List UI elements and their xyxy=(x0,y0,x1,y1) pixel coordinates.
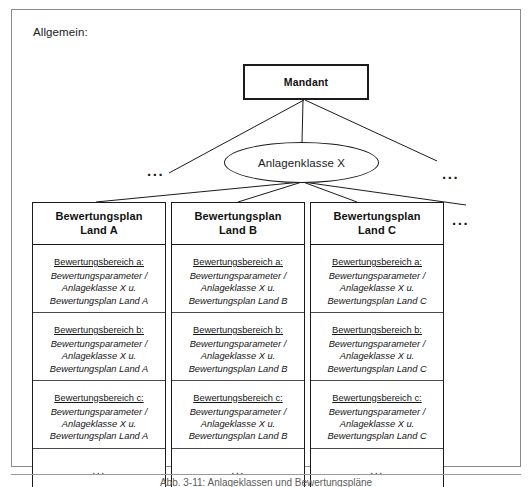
bewertungsbereich-c0-line3: Bewertungsplan Land C xyxy=(314,295,440,307)
bewertungsbereich-c0[interactable]: Bewertungsbereich a: Bewertungsparameter… xyxy=(311,245,443,313)
bewertungsbereich-a1-title: Bewertungsbereich b: xyxy=(54,324,144,336)
ellipsis-more-plans: ... xyxy=(452,212,469,227)
plan-header-a-line2: Land A xyxy=(80,224,117,238)
bewertungsbereich-a0-line3: Bewertungsplan Land A xyxy=(36,295,162,307)
bewertungsbereich-c2[interactable]: Bewertungsbereich c: Bewertungsparameter… xyxy=(311,381,443,449)
bewertungsbereich-c2-title: Bewertungsbereich c: xyxy=(332,392,421,404)
section-label: Allgemein: xyxy=(33,26,88,38)
bewertungsbereich-b0-line2: Anlageklasse X u. xyxy=(175,282,301,294)
bewertungsbereich-b2-line2: Anlageklasse X u. xyxy=(175,418,301,430)
anlagenklasse-label: Anlagenklasse X xyxy=(258,157,345,169)
bewertungsbereich-c2-line3: Bewertungsplan Land C xyxy=(314,430,440,442)
bewertungsbereich-a0[interactable]: Bewertungsbereich a: Bewertungsparameter… xyxy=(33,245,165,313)
bewertungsbereich-b-more-label: ... xyxy=(175,463,301,478)
bewertungsbereich-a0-line1: Bewertungsparameter / xyxy=(36,270,162,282)
anlagenklasse-node[interactable]: Anlagenklasse X xyxy=(224,142,379,183)
bewertungsbereich-b2-line3: Bewertungsplan Land B xyxy=(175,430,301,442)
plan-header-c-line1: Bewertungsplan xyxy=(334,210,421,224)
bewertungsplan-column-b[interactable]: Bewertungsplan Land B Bewertungsbereich … xyxy=(171,202,305,487)
bewertungsbereich-c-more-label: ... xyxy=(314,463,440,478)
bewertungsbereich-b0[interactable]: Bewertungsbereich a: Bewertungsparameter… xyxy=(172,245,304,313)
mandant-node[interactable]: Mandant xyxy=(243,64,369,100)
bewertungsbereich-c1-line2: Anlageklasse X u. xyxy=(314,350,440,362)
bewertungsbereich-a1-line1: Bewertungsparameter / xyxy=(36,338,162,350)
bewertungsbereich-b1-line1: Bewertungsparameter / xyxy=(175,338,301,350)
caption-divider xyxy=(11,474,521,475)
bewertungsbereich-c0-title: Bewertungsbereich a: xyxy=(332,256,422,268)
bewertungsbereich-b2-line1: Bewertungsparameter / xyxy=(175,406,301,418)
bewertungsbereich-b2[interactable]: Bewertungsbereich c: Bewertungsparameter… xyxy=(172,381,304,449)
bewertungsbereich-c1-line3: Bewertungsplan Land C xyxy=(314,363,440,375)
ellipsis-left: ... xyxy=(147,163,164,178)
bewertungsbereich-b1-line3: Bewertungsplan Land B xyxy=(175,363,301,375)
bewertungsbereich-a-more-label: ... xyxy=(36,463,162,478)
bewertungsbereich-c0-line1: Bewertungsparameter / xyxy=(314,270,440,282)
bewertungsbereich-b0-line1: Bewertungsparameter / xyxy=(175,270,301,282)
figure-canvas: Allgemein: Mandant Anlagenklasse X ... .… xyxy=(0,0,532,487)
bewertungsbereich-b1-title: Bewertungsbereich b: xyxy=(193,324,283,336)
bewertungsbereich-b1[interactable]: Bewertungsbereich b: Bewertungsparameter… xyxy=(172,313,304,381)
bewertungsbereich-a1-line3: Bewertungsplan Land A xyxy=(36,363,162,375)
bewertungsbereich-b2-title: Bewertungsbereich c: xyxy=(193,392,282,404)
plan-header-b-line2: Land B xyxy=(219,224,257,238)
plan-header-b: Bewertungsplan Land B xyxy=(172,203,304,245)
bewertungsbereich-c2-line1: Bewertungsparameter / xyxy=(314,406,440,418)
figure-caption: Abb. 3-11: Anlageklassen und Bewertungsp… xyxy=(0,477,532,487)
bewertungsplan-column-c[interactable]: Bewertungsplan Land C Bewertungsbereich … xyxy=(310,202,444,487)
mandant-label: Mandant xyxy=(284,76,329,88)
bewertungsplan-column-a[interactable]: Bewertungsplan Land A Bewertungsbereich … xyxy=(32,202,166,487)
bewertungsbereich-a0-line2: Anlageklasse X u. xyxy=(36,282,162,294)
bewertungsbereich-c1[interactable]: Bewertungsbereich b: Bewertungsparameter… xyxy=(311,313,443,381)
bewertungsbereich-a1[interactable]: Bewertungsbereich b: Bewertungsparameter… xyxy=(33,313,165,381)
bewertungsbereich-a2-line1: Bewertungsparameter / xyxy=(36,406,162,418)
bewertungsbereich-c1-title: Bewertungsbereich b: xyxy=(332,324,422,336)
plan-header-c: Bewertungsplan Land C xyxy=(311,203,443,245)
bewertungsbereich-c2-line2: Anlageklasse X u. xyxy=(314,418,440,430)
bewertungsbereich-a1-line2: Anlageklasse X u. xyxy=(36,350,162,362)
plan-header-c-line2: Land C xyxy=(358,224,396,238)
bewertungsbereich-b1-line2: Anlageklasse X u. xyxy=(175,350,301,362)
bewertungsbereich-a2[interactable]: Bewertungsbereich c: Bewertungsparameter… xyxy=(33,381,165,449)
bewertungsbereich-b0-line3: Bewertungsplan Land B xyxy=(175,295,301,307)
bewertungsbereich-a2-line2: Anlageklasse X u. xyxy=(36,418,162,430)
bewertungsbereich-b0-title: Bewertungsbereich a: xyxy=(193,256,283,268)
plan-header-a: Bewertungsplan Land A xyxy=(33,203,165,245)
plan-header-b-line1: Bewertungsplan xyxy=(195,210,282,224)
ellipsis-right: ... xyxy=(442,166,459,181)
bewertungsbereich-a2-title: Bewertungsbereich c: xyxy=(54,392,143,404)
bewertungsbereich-c1-line1: Bewertungsparameter / xyxy=(314,338,440,350)
plan-header-a-line1: Bewertungsplan xyxy=(56,210,143,224)
bewertungsbereich-c0-line2: Anlageklasse X u. xyxy=(314,282,440,294)
bewertungsbereich-a2-line3: Bewertungsplan Land A xyxy=(36,430,162,442)
bewertungsbereich-a0-title: Bewertungsbereich a: xyxy=(54,256,144,268)
